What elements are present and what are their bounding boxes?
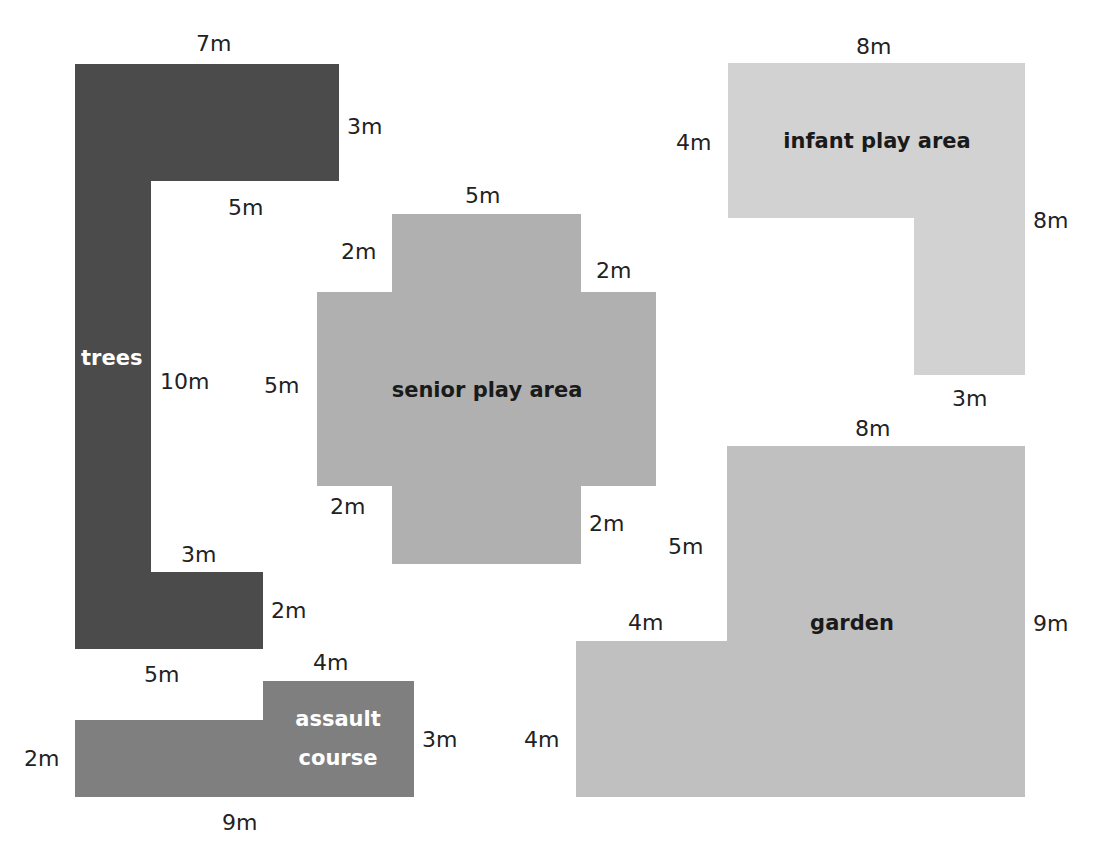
- assault-dim-left: 2m: [24, 746, 59, 771]
- trees-dim-arm-height: 3m: [347, 114, 382, 139]
- assault-course-shape: assault course 4m 5m 3m 2m 9m: [24, 650, 457, 835]
- garden-label: garden: [810, 611, 894, 635]
- infant-play-area-label: infant play area: [783, 129, 970, 153]
- school-grounds-plan: trees 7m 3m 5m 10m 3m 2m 5m assault cour…: [0, 0, 1118, 865]
- assault-course-polygon: [75, 681, 414, 797]
- garden-dim-right: 9m: [1033, 611, 1068, 636]
- assault-dim-bottom: 9m: [222, 810, 257, 835]
- senior-dim-bottom-left: 2m: [330, 494, 365, 519]
- infant-dim-left: 4m: [676, 130, 711, 155]
- garden-dim-step-width: 4m: [628, 610, 663, 635]
- assault-course-label-line1: assault: [295, 707, 381, 731]
- assault-dim-top: 4m: [313, 650, 348, 675]
- trees-dim-inner-height: 10m: [160, 369, 209, 394]
- trees-dim-foot-inner: 3m: [181, 542, 216, 567]
- infant-play-area-shape: infant play area 8m 4m 8m 3m: [676, 34, 1068, 411]
- trees-label: trees: [81, 346, 142, 370]
- senior-play-area-label: senior play area: [392, 378, 583, 402]
- senior-dim-bottom-right: 2m: [589, 511, 624, 536]
- senior-play-area-shape: senior play area 5m 2m 2m 5m 2m 2m: [264, 183, 656, 564]
- senior-dim-top: 5m: [465, 183, 500, 208]
- trees-dim-arm-inner: 5m: [228, 195, 263, 220]
- infant-dim-right: 8m: [1033, 208, 1068, 233]
- infant-play-area-polygon: [728, 63, 1025, 375]
- assault-course-label-line2: course: [299, 746, 378, 770]
- senior-dim-top-left: 2m: [341, 239, 376, 264]
- assault-dim-right: 3m: [422, 727, 457, 752]
- trees-dim-bottom: 5m: [144, 662, 179, 687]
- senior-dim-left: 5m: [264, 373, 299, 398]
- infant-dim-bottom: 3m: [952, 386, 987, 411]
- garden-dim-left: 4m: [524, 727, 559, 752]
- senior-dim-top-right: 2m: [596, 258, 631, 283]
- trees-dim-top: 7m: [196, 31, 231, 56]
- infant-dim-top: 8m: [856, 34, 891, 59]
- garden-dim-top: 8m: [855, 416, 890, 441]
- trees-dim-foot-height: 2m: [271, 598, 306, 623]
- garden-dim-step-height: 5m: [668, 534, 703, 559]
